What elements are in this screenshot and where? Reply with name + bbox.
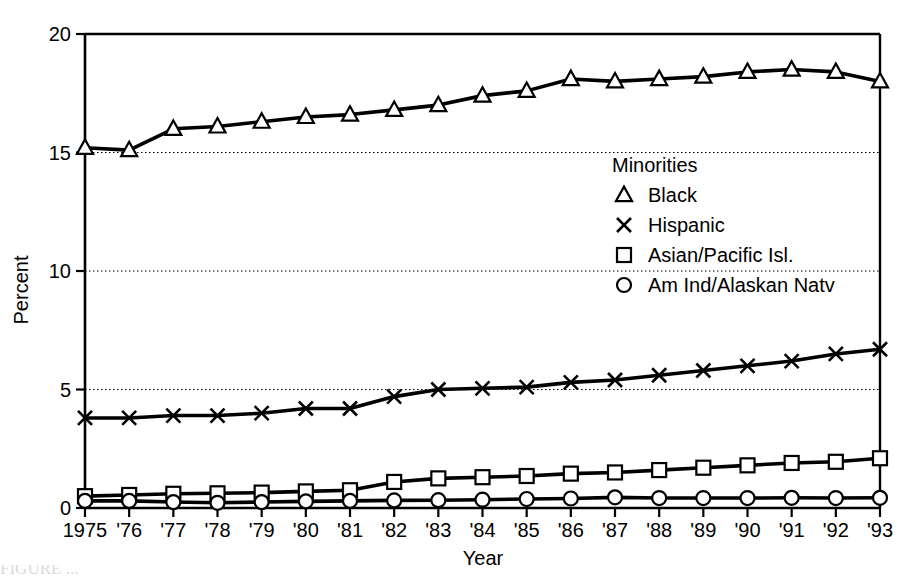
- chart-figure: 05101520 1975'76'77'78'79'80'81'82'83'84…: [0, 0, 917, 581]
- legend-entry-am-ind-alaskan-natv: Am Ind/Alaskan Natv: [617, 274, 835, 296]
- x-tick-label: '85: [514, 519, 540, 541]
- x-tick-label: '86: [558, 519, 584, 541]
- data-point-square: [785, 456, 799, 470]
- legend-entry-asian-pacific-isl: Asian/Pacific Isl.: [617, 244, 794, 266]
- x-tick-label: '92: [823, 519, 849, 541]
- line-chart: 05101520 1975'76'77'78'79'80'81'82'83'84…: [0, 0, 917, 581]
- x-tick-label: '78: [204, 519, 230, 541]
- x-tick-label: '77: [160, 519, 186, 541]
- data-point-circle: [617, 278, 631, 292]
- data-point-circle: [166, 495, 180, 509]
- data-point-circle: [122, 494, 136, 508]
- x-tick-label: '88: [646, 519, 672, 541]
- data-point-square: [476, 470, 490, 484]
- data-point-square: [520, 469, 534, 483]
- data-point-circle: [255, 495, 269, 509]
- data-point-square: [387, 475, 401, 489]
- y-tick-label: 15: [49, 142, 71, 164]
- legend-title: Minorities: [612, 154, 698, 176]
- data-point-circle: [608, 490, 622, 504]
- data-point-cross: [617, 218, 631, 232]
- legend-entry-hispanic: Hispanic: [617, 214, 725, 236]
- y-tick-label: 10: [49, 260, 71, 282]
- y-tick-label: 0: [60, 497, 71, 519]
- data-point-circle: [741, 491, 755, 505]
- data-point-circle: [785, 491, 799, 505]
- x-tick-label: '91: [779, 519, 805, 541]
- data-point-square: [431, 471, 445, 485]
- data-point-circle: [78, 494, 92, 508]
- legend-label: Am Ind/Alaskan Natv: [648, 274, 835, 296]
- y-tick-label: 20: [49, 23, 71, 45]
- x-tick-label: '83: [425, 519, 451, 541]
- x-tick-label: '79: [249, 519, 275, 541]
- x-tick-label: '76: [116, 519, 142, 541]
- y-axis-title: Percent: [10, 255, 32, 324]
- data-point-square: [873, 451, 887, 465]
- data-point-circle: [211, 496, 225, 510]
- data-point-square: [608, 465, 622, 479]
- x-tick-label: '84: [469, 519, 495, 541]
- data-point-circle: [343, 494, 357, 508]
- data-point-square: [829, 455, 843, 469]
- data-point-circle: [520, 492, 534, 506]
- x-tick-label: '87: [602, 519, 628, 541]
- data-point-circle: [696, 491, 710, 505]
- data-point-square: [741, 458, 755, 472]
- y-tick-label: 5: [60, 379, 71, 401]
- data-point-circle: [387, 493, 401, 507]
- series-line: [85, 70, 880, 151]
- data-point-circle: [873, 491, 887, 505]
- series-hispanic: [78, 342, 887, 425]
- data-point-circle: [431, 493, 445, 507]
- legend-label: Black: [648, 184, 698, 206]
- data-point-circle: [299, 494, 313, 508]
- data-point-square: [696, 461, 710, 475]
- x-tick-label: '81: [337, 519, 363, 541]
- x-tick-label: '90: [734, 519, 760, 541]
- chart-legend: MinoritiesBlackHispanicAsian/Pacific Isl…: [612, 154, 835, 296]
- figure-caption-fragment: FIGURE ...: [0, 565, 917, 581]
- x-tick-label: 1975: [63, 519, 108, 541]
- data-point-circle: [564, 492, 578, 506]
- legend-label: Asian/Pacific Isl.: [648, 244, 794, 266]
- series-line: [85, 349, 880, 418]
- x-tick-label: '89: [690, 519, 716, 541]
- x-axis-ticks: 1975'76'77'78'79'80'81'82'83'84'85'86'87…: [63, 508, 893, 541]
- x-tick-label: '80: [293, 519, 319, 541]
- data-point-circle: [829, 491, 843, 505]
- data-point-circle: [476, 493, 490, 507]
- data-point-square: [652, 463, 666, 477]
- data-point-square: [564, 467, 578, 481]
- x-tick-label: '82: [381, 519, 407, 541]
- legend-label: Hispanic: [648, 214, 725, 236]
- y-axis-ticks: 05101520: [49, 23, 85, 519]
- data-point-circle: [652, 491, 666, 505]
- x-tick-label: '93: [867, 519, 893, 541]
- data-point-square: [617, 248, 631, 262]
- data-point-triangle: [616, 187, 632, 201]
- series-black: [77, 61, 888, 156]
- legend-entry-black: Black: [616, 184, 698, 206]
